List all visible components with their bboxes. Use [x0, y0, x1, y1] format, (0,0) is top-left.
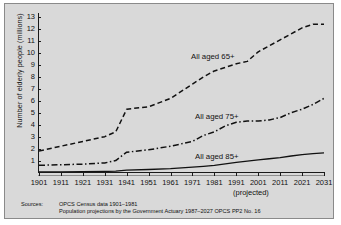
x-tick-1991: 1991	[225, 178, 247, 187]
x-tick-mark-2031	[324, 173, 325, 176]
x-axis-secondary-rule	[38, 175, 325, 176]
x-tick-mark-1921	[83, 173, 84, 176]
x-tick-mark-1991	[236, 173, 237, 176]
sources-line-2: Population projections by the Government…	[59, 208, 261, 215]
x-tick-1961: 1961	[160, 178, 182, 187]
sources-note: Sources: OPCS Census data 1901–1981 Popu…	[21, 201, 261, 215]
projected-annotation: (projected)	[233, 188, 269, 197]
y-tick-8: 8	[19, 73, 35, 81]
x-tick-1921: 1921	[72, 178, 94, 187]
x-axis-line	[38, 172, 325, 173]
x-tick-2021: 2021	[291, 178, 313, 187]
sources-line-1: OPCS Census data 1901–1981	[59, 201, 261, 208]
y-tick-12: 12	[19, 25, 35, 33]
x-tick-mark-2011	[280, 173, 281, 176]
x-tick-mark-1931	[105, 173, 106, 176]
series-line-all-aged-65-	[39, 24, 324, 151]
x-tick-1911: 1911	[50, 178, 72, 187]
series-label-75plus: All aged 75+	[195, 112, 239, 121]
series-label-65plus: All aged 65+	[191, 52, 235, 61]
x-tick-mark-1941	[127, 173, 128, 176]
x-tick-1981: 1981	[203, 178, 225, 187]
y-tick-6: 6	[19, 97, 35, 105]
x-tick-1901: 1901	[28, 178, 50, 187]
series-label-85plus: All aged 85+	[195, 152, 239, 161]
y-axis-tick-labels: 12345678910111213	[17, 4, 35, 184]
y-tick-9: 9	[19, 61, 35, 69]
x-tick-mark-1971	[192, 173, 193, 176]
y-tick-3: 3	[19, 133, 35, 141]
x-tick-mark-1961	[171, 173, 172, 176]
y-tick-4: 4	[19, 121, 35, 129]
y-tick-2: 2	[19, 145, 35, 153]
x-tick-mark-2021	[302, 173, 303, 176]
series-line-all-aged-75-	[39, 98, 324, 165]
y-tick-7: 7	[19, 85, 35, 93]
x-tick-1971: 1971	[181, 178, 203, 187]
x-tick-2031: 2031	[313, 178, 335, 187]
x-tick-mark-1911	[61, 173, 62, 176]
y-tick-5: 5	[19, 109, 35, 117]
y-tick-10: 10	[19, 49, 35, 57]
series-curves	[39, 14, 324, 172]
sources-heading: Sources:	[21, 201, 43, 208]
y-tick-1: 1	[19, 157, 35, 165]
x-tick-1951: 1951	[138, 178, 160, 187]
x-tick-mark-1901	[39, 173, 40, 176]
x-tick-1941: 1941	[116, 178, 138, 187]
chart-panel: Number of elderly people (millions) 1234…	[4, 3, 334, 219]
x-tick-mark-2001	[258, 173, 259, 176]
x-tick-mark-1951	[149, 173, 150, 176]
x-tick-mark-1981	[214, 173, 215, 176]
x-tick-2001: 2001	[247, 178, 269, 187]
x-tick-1931: 1931	[94, 178, 116, 187]
plot-area	[39, 14, 324, 172]
y-tick-13: 13	[19, 13, 35, 21]
x-tick-2011: 2011	[269, 178, 291, 187]
series-line-all-aged-85-	[39, 153, 324, 172]
y-tick-11: 11	[19, 37, 35, 45]
